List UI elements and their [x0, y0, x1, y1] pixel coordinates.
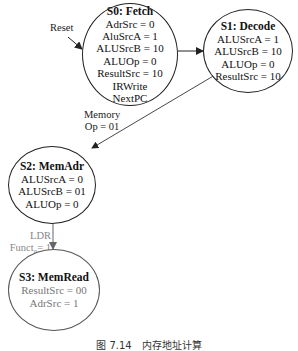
state-output: ALUSrcB = 10 — [214, 45, 281, 57]
label-line: Memory — [84, 109, 120, 121]
memory-op-label: Memory Op = 01 — [84, 109, 120, 133]
state-output: ALUSrcB = 10 — [96, 42, 163, 54]
state-output: ResultSrc = 00 — [21, 284, 86, 296]
state-s1-decode: S1: Decode ALUSrcA = 1 ALUSrcB = 10 ALUO… — [203, 9, 293, 93]
state-output: AdrSrc = 0 — [106, 18, 155, 30]
state-output: IRWrite — [113, 80, 148, 92]
label-line: Op = 01 — [84, 121, 120, 133]
state-output: ALUSrcA = 1 — [217, 33, 279, 45]
state-s2-memadr: S2: MemAdr ALUSrcA = 0 ALUSrcB = 01 ALUO… — [8, 146, 96, 224]
figure-caption: 图 7.14 内存地址计算 — [0, 337, 298, 351]
state-title: S2: MemAdr — [20, 160, 84, 173]
state-output: ALUSrcA = 0 — [21, 173, 83, 185]
state-output: ALUOp = 0 — [103, 55, 156, 67]
state-s0-fetch: S0: Fetch AdrSrc = 0 AluSrcA = 1 ALUSrcB… — [82, 3, 178, 106]
state-s3-memread: S3: MemRead ResultSrc = 00 AdrSrc = 1 — [8, 249, 100, 331]
state-title: S0: Fetch — [107, 5, 153, 18]
state-output: AluSrcA = 1 — [102, 30, 158, 42]
reset-label: Reset — [50, 22, 73, 34]
state-output: ResultSrc = 10 — [215, 70, 280, 82]
state-title: S1: Decode — [221, 20, 276, 33]
state-output: AdrSrc = 1 — [30, 297, 79, 309]
state-title: S3: MemRead — [19, 271, 89, 284]
state-output: ALUSrcB = 01 — [18, 185, 85, 197]
state-output: ALUOp = 0 — [221, 58, 274, 70]
state-output: ALUOp = 0 — [25, 198, 78, 210]
state-output: ResultSrc = 10 — [97, 67, 162, 79]
label-line: LDR — [6, 230, 51, 242]
state-output: NextPC — [113, 92, 148, 104]
